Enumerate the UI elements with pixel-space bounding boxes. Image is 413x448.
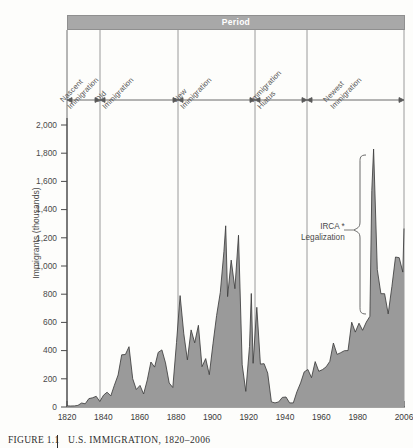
y-axis-title: Immigrants (thousands) (31, 153, 41, 313)
chart-svg: 0 200 400 600 800 1,000 1,200 1,400 1,60… (0, 0, 413, 448)
irca-annotation-line2: Legalization (301, 233, 345, 244)
period-header-bar: Period (67, 15, 405, 30)
figure-caption-number: FIGURE 1.1 (8, 435, 60, 445)
svg-text:1880: 1880 (167, 412, 186, 422)
irca-annotation: IRCA * Legalization (301, 222, 345, 243)
svg-text:2006: 2006 (395, 412, 413, 422)
figure-caption-rule (57, 435, 58, 448)
svg-text:1820: 1820 (58, 412, 77, 422)
svg-text:400: 400 (43, 345, 57, 355)
svg-text:1920: 1920 (239, 412, 258, 422)
svg-text:600: 600 (43, 317, 57, 327)
figure-caption: FIGURE 1.1 U.S. IMMIGRATION, 1820–2006 (0, 435, 413, 448)
period-header-label: Period (68, 16, 404, 29)
svg-text:1980: 1980 (348, 412, 367, 422)
irca-brace (354, 155, 366, 314)
immigration-area-series (67, 149, 404, 407)
svg-text:800: 800 (43, 289, 57, 299)
irca-annotation-line1: IRCA * (301, 222, 345, 233)
svg-text:1960: 1960 (312, 412, 331, 422)
svg-text:1860: 1860 (130, 412, 149, 422)
svg-text:1940: 1940 (276, 412, 295, 422)
svg-text:0: 0 (52, 402, 57, 412)
svg-text:2,000: 2,000 (36, 120, 57, 130)
svg-text:200: 200 (43, 374, 57, 384)
figure-caption-text: U.S. IMMIGRATION, 1820–2006 (68, 435, 210, 445)
immigration-figure: Period Immigrants (thousands) Nascent Im… (0, 0, 413, 448)
svg-text:1840: 1840 (94, 412, 113, 422)
svg-text:1900: 1900 (203, 412, 222, 422)
